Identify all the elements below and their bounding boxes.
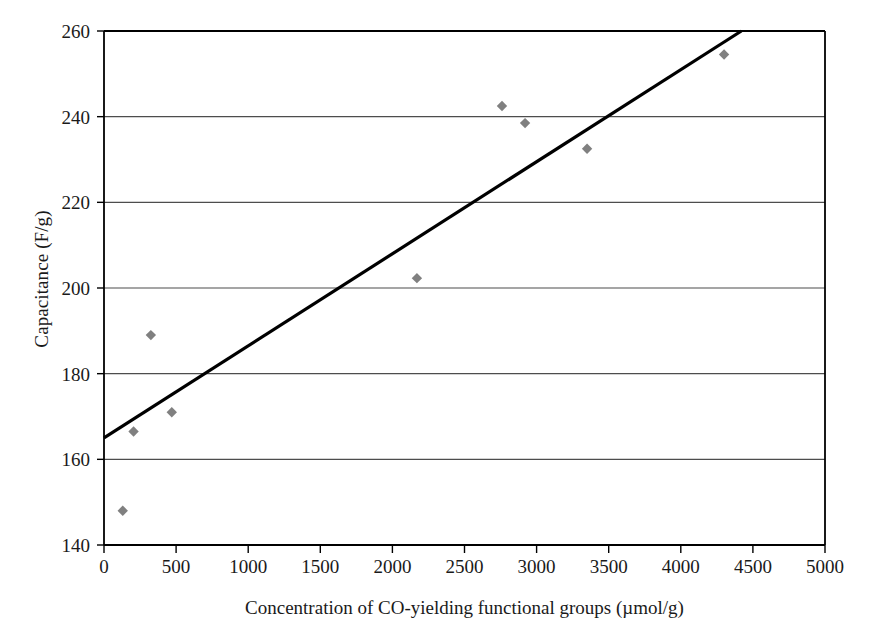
data-point-6 [520,118,530,128]
x-axis-tick-labels: 0500100015002000250030003500400045005000 [0,557,871,587]
x-tick-label-5000: 5000 [780,557,870,576]
data-point-7 [582,144,592,154]
trend-line-segment [104,31,741,438]
chart-figure: Capacitance (F/g) 140160180200220240260 … [0,0,871,638]
data-point-8 [719,49,729,59]
gridlines [104,31,825,459]
data-point-4 [412,273,422,283]
x-axis-tick-marks [104,545,825,553]
data-point-2 [146,330,156,340]
data-markers [118,49,730,516]
data-point-3 [167,407,177,417]
data-point-5 [497,101,507,111]
trend-line [104,31,741,438]
data-point-0 [118,506,128,516]
plot-area [0,0,871,638]
x-axis-title: Concentration of CO-yielding functional … [104,597,825,619]
y-axis-tick-marks [97,31,104,545]
data-point-1 [128,426,138,436]
